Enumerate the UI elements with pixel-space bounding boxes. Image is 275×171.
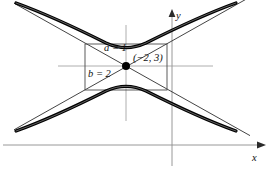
x-axis-label: x — [251, 152, 257, 163]
y-axis-label: y — [175, 10, 181, 21]
label-b: b = 2 — [88, 68, 112, 79]
label-a: a = 1 — [104, 42, 127, 53]
center-point-label: (−2, 3) — [133, 52, 163, 64]
center-point-dot — [122, 62, 130, 70]
hyperbola-figure: a = 1 b = 2 (−2, 3) y x — [0, 0, 275, 171]
